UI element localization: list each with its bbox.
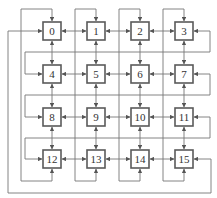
svg-text:0: 0 <box>49 25 55 37</box>
node-11: 11 <box>175 108 193 126</box>
node-5: 5 <box>87 65 105 83</box>
node-12: 12 <box>43 150 61 168</box>
svg-text:7: 7 <box>181 68 187 80</box>
svg-text:6: 6 <box>137 68 143 80</box>
svg-text:2: 2 <box>137 25 143 37</box>
svg-text:10: 10 <box>135 111 147 123</box>
svg-text:12: 12 <box>47 153 58 165</box>
node-9: 9 <box>87 108 105 126</box>
node-10: 10 <box>131 108 149 126</box>
svg-text:8: 8 <box>49 111 55 123</box>
svg-text:5: 5 <box>93 68 99 80</box>
node-15: 15 <box>175 150 193 168</box>
node-6: 6 <box>131 65 149 83</box>
svg-text:13: 13 <box>91 153 103 165</box>
svg-text:14: 14 <box>135 153 147 165</box>
svg-text:1: 1 <box>93 25 99 37</box>
svg-text:3: 3 <box>181 25 187 37</box>
node-0: 0 <box>43 22 61 40</box>
node-2: 2 <box>131 22 149 40</box>
node-13: 13 <box>87 150 105 168</box>
node-3: 3 <box>175 22 193 40</box>
svg-text:15: 15 <box>179 153 191 165</box>
node-7: 7 <box>175 65 193 83</box>
node-14: 14 <box>131 150 149 168</box>
mesh-network-diagram: 0 1 2 3 4 5 6 7 8 9 10 11 12 13 14 15 <box>0 0 217 198</box>
svg-text:11: 11 <box>179 111 190 123</box>
svg-text:4: 4 <box>49 68 55 80</box>
node-4: 4 <box>43 65 61 83</box>
node-1: 1 <box>87 22 105 40</box>
svg-text:9: 9 <box>93 111 99 123</box>
node-8: 8 <box>43 108 61 126</box>
